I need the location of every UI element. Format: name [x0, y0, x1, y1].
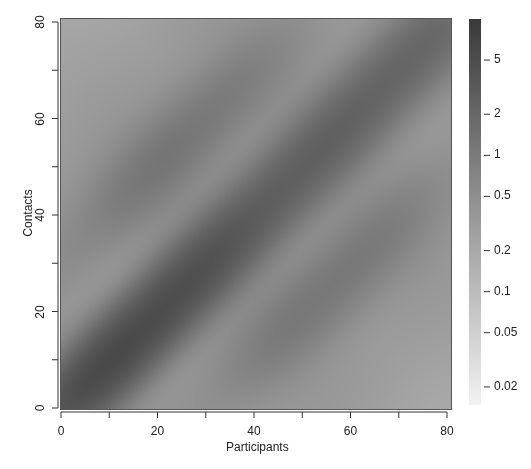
plot-border — [61, 19, 452, 410]
colorbar-tick-label: 0.1 — [494, 284, 511, 298]
colorbar-tick-label: 0.02 — [494, 379, 517, 393]
x-tick-label: 20 — [151, 424, 164, 438]
x-tick-label: 60 — [344, 424, 357, 438]
colorbar-tick-label: 0.5 — [494, 188, 511, 202]
colorbar-tick-label: 2 — [494, 106, 501, 120]
x-tick-label: 0 — [58, 424, 65, 438]
colorbar-tick-label: 5 — [494, 52, 501, 66]
x-axis-label: Participants — [226, 440, 289, 454]
colorbar-tick-label: 0.2 — [494, 243, 511, 257]
y-tick-label: 40 — [33, 208, 47, 221]
axes — [0, 0, 531, 469]
y-tick-label: 0 — [33, 405, 47, 412]
y-tick-label: 60 — [33, 112, 47, 125]
y-tick-label: 20 — [33, 305, 47, 318]
colorbar-tick-label: 1 — [494, 147, 501, 161]
x-tick-label: 80 — [440, 424, 453, 438]
y-tick-label: 80 — [33, 15, 47, 28]
colorbar-tick-label: 0.05 — [494, 325, 517, 339]
x-tick-label: 40 — [247, 424, 260, 438]
